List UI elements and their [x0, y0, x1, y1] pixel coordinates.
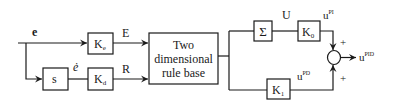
- branch-to-derivative: [26, 43, 42, 79]
- fuzzy-pid-block-diagram: e Ke s ė Kd E R Two dimensional rule bas…: [0, 0, 394, 110]
- label-u-pd: uPD: [297, 70, 311, 82]
- label-e: e: [32, 25, 38, 39]
- rule-base-block: Two dimensional rule base: [149, 33, 218, 84]
- k1-gain-block: K1: [267, 79, 290, 99]
- kd-gain-block: Kd: [88, 68, 113, 90]
- label-E: E: [122, 26, 129, 40]
- plus-sign-bottom: +: [340, 72, 346, 84]
- input-signal-e: e: [18, 25, 87, 43]
- svg-text:Two: Two: [173, 38, 194, 52]
- label-R: R: [122, 62, 130, 76]
- derivative-s-block: s: [43, 68, 68, 90]
- plus-sign-top: +: [340, 36, 346, 48]
- wire-u-pi: [320, 31, 333, 50]
- svg-text:rule base: rule base: [162, 66, 205, 80]
- svg-text:s: s: [52, 72, 57, 86]
- label-U: U: [282, 8, 291, 22]
- ke-gain-block: Ke: [88, 33, 113, 54]
- label-e-dot: ė: [73, 60, 79, 74]
- integrator-sum-block: Σ: [254, 21, 272, 41]
- svg-text:Σ: Σ: [259, 24, 267, 39]
- k0-gain-block: K0: [298, 21, 320, 41]
- label-u-pi: uPI: [323, 9, 334, 21]
- svg-text:dimensional: dimensional: [154, 52, 213, 66]
- summing-junction: [328, 51, 341, 65]
- label-u-pid: uPID: [359, 51, 375, 63]
